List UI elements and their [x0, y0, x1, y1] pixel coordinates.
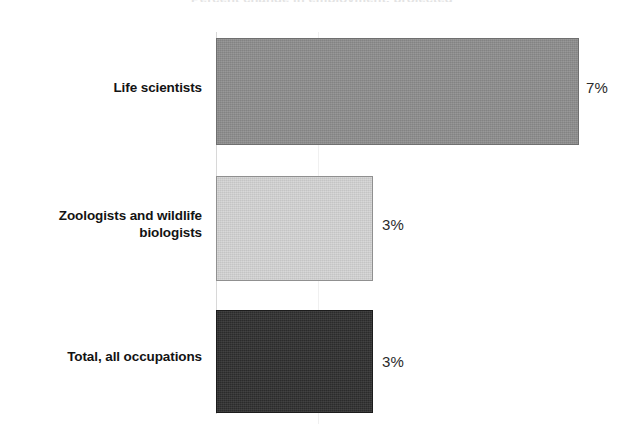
category-label-line-1: Total, all occupations [0, 348, 202, 365]
value-label-zoologists: 3% [382, 216, 404, 233]
category-label-life-scientists: Life scientists [0, 79, 202, 96]
category-label-line-2: biologists [0, 224, 202, 241]
value-label-life-scientists: 7% [586, 79, 608, 96]
bar-row-total-all-occupations: Total, all occupations 3% [0, 310, 644, 413]
category-label-line-1: Zoologists and wildlife [0, 207, 202, 224]
chart-title: Percent change in employment, projected [0, 0, 644, 2]
category-label-line-1: Life scientists [0, 79, 202, 96]
category-label-total-all-occupations: Total, all occupations [0, 348, 202, 365]
bar-zoologists [216, 176, 373, 281]
bar-life-scientists [216, 38, 579, 145]
bar-total-all-occupations [216, 310, 373, 413]
bar-chart-figure: Percent change in employment, projected … [0, 0, 644, 432]
category-label-zoologists: Zoologists and wildlife biologists [0, 207, 202, 241]
bar-row-zoologists: Zoologists and wildlife biologists 3% [0, 176, 644, 281]
value-label-total-all-occupations: 3% [382, 353, 404, 370]
bar-row-life-scientists: Life scientists 7% [0, 38, 644, 146]
